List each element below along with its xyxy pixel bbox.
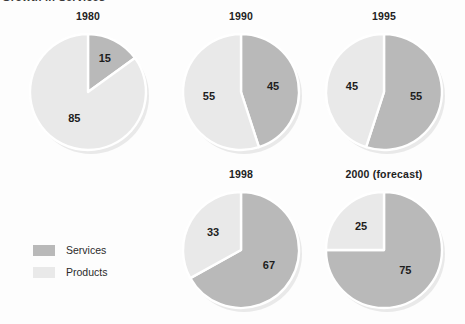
legend: Services Products xyxy=(33,239,107,283)
legend-label-products: Products xyxy=(66,266,107,278)
legend-swatch-products xyxy=(33,267,55,278)
pie-caption: 2000 (forecast) xyxy=(318,168,450,180)
slice-value-services: 55 xyxy=(410,90,422,102)
slice-value-products: 55 xyxy=(203,90,215,102)
pie-caption: 1990 xyxy=(175,10,307,22)
slice-value-services: 75 xyxy=(399,264,411,276)
slice-value-products: 25 xyxy=(355,220,367,232)
legend-item-services: Services xyxy=(33,239,107,261)
pie-caption: 1998 xyxy=(175,168,307,180)
chart-canvas: Growth in Services 198015851990455519955… xyxy=(0,0,465,324)
pie-body: 4555 xyxy=(175,30,307,160)
pie-body: 5545 xyxy=(318,30,450,160)
slice-value-products: 85 xyxy=(68,112,80,124)
slice-value-services: 15 xyxy=(99,52,111,64)
slice-value-services: 67 xyxy=(263,259,275,271)
pie-body: 1585 xyxy=(22,30,154,160)
legend-label-services: Services xyxy=(66,244,106,256)
page-title: Growth in Services xyxy=(2,0,105,3)
legend-swatch-services xyxy=(33,245,55,256)
pie-caption: 1980 xyxy=(22,10,154,22)
slice-value-products: 45 xyxy=(346,80,358,92)
pie-caption: 1995 xyxy=(318,10,450,22)
legend-item-products: Products xyxy=(33,261,107,283)
pie-body: 6733 xyxy=(175,188,307,318)
pie-body: 7525 xyxy=(318,188,450,318)
slice-value-services: 45 xyxy=(267,80,279,92)
slice-value-products: 33 xyxy=(207,226,219,238)
